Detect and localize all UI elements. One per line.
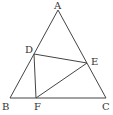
label-f: F (34, 101, 41, 112)
label-a: A (53, 0, 62, 11)
segment-ef (36, 63, 87, 98)
segment-df (34, 54, 36, 98)
segment-de (34, 54, 87, 63)
triangle-diagram: A B C D E F (0, 0, 113, 115)
segment-ac (58, 10, 106, 98)
label-c: C (102, 101, 110, 112)
label-d: D (25, 44, 33, 55)
label-e: E (91, 56, 98, 67)
label-b: B (2, 101, 9, 112)
